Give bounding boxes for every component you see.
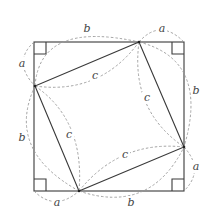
label-a-bottom: a: [54, 196, 61, 209]
label-b-right: b: [192, 84, 199, 97]
labels: b a a b c c b c c a a b: [17, 22, 201, 209]
label-c-top: c: [92, 69, 98, 82]
label-a-top: a: [159, 22, 166, 35]
label-c-left: c: [66, 128, 72, 141]
right-angle-marker-tl: [34, 42, 46, 54]
inner-square: [35, 42, 184, 191]
vertex-top: [138, 41, 141, 44]
arc-b-top: [35, 37, 139, 87]
label-a-right: a: [193, 160, 200, 173]
vertex-bottom: [78, 190, 81, 193]
arc-b-bottom: [79, 147, 184, 197]
right-angle-marker-bl: [34, 179, 46, 191]
label-b-left: b: [18, 131, 25, 144]
label-b-bottom: b: [127, 196, 134, 209]
right-angle-marker-tr: [172, 42, 184, 54]
label-b-top: b: [83, 22, 90, 35]
label-c-bottom: c: [122, 148, 128, 161]
outer-square: [34, 42, 184, 191]
label-c-right: c: [144, 91, 150, 104]
vertex-right: [183, 146, 186, 149]
pythagorean-diagram: b a a b c c b c c a a b: [0, 0, 212, 224]
label-a-left: a: [19, 57, 26, 70]
vertex-left: [34, 85, 37, 88]
right-angle-marker-br: [172, 179, 184, 191]
